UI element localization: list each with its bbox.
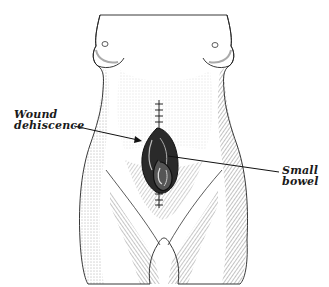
label-wound-dehiscence: Wound dehiscence [14,109,84,131]
label-line: dehiscence [14,120,84,131]
torso-illustration [0,0,329,287]
illustration: Wound dehiscence Small bowel [0,0,329,287]
label-line: bowel [282,176,319,187]
label-small-bowel: Small bowel [282,165,319,187]
